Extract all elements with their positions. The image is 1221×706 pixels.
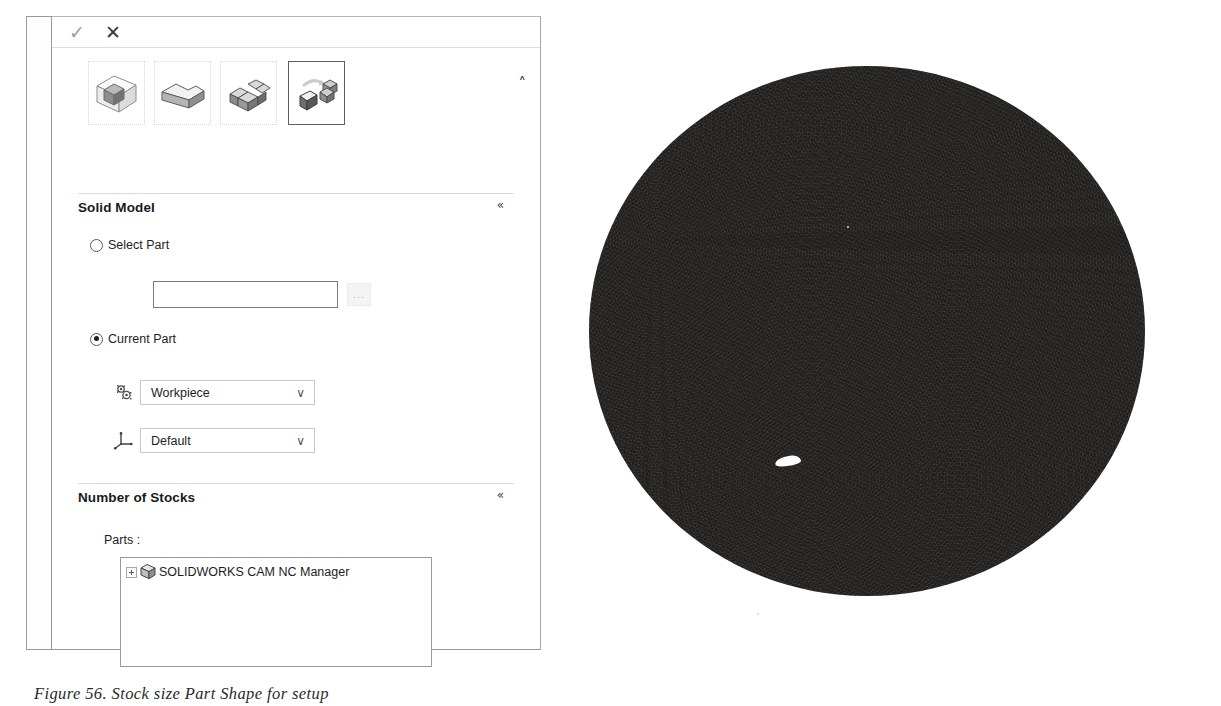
number-of-stocks-title: Number of Stocks [78,490,195,505]
property-manager-panel: ✓ ✕ [52,16,540,650]
current-part-radio[interactable] [90,333,103,346]
solid-model-collapse-icon[interactable]: « [497,198,504,212]
parts-label: Parts : [104,533,140,547]
solid-model-group: Solid Model « [78,193,514,219]
scan-speck [847,226,849,228]
panel-collapse-chevron-icon[interactable]: ˄ [519,77,527,92]
expand-plus-icon[interactable] [126,567,137,578]
cube-icon [139,563,159,581]
coordinate-system-value: Default [141,434,191,448]
current-part-label: Current Part [108,332,176,346]
stl-mesh-stock-button[interactable] [220,61,277,125]
part-file-stock-icon [290,64,343,124]
command-manager-gutter[interactable] [26,16,52,650]
accept-check-icon[interactable]: ✓ [65,21,89,43]
stock-model-render[interactable] [589,66,1145,596]
number-of-stocks-group: Number of Stocks « [78,483,514,509]
chevron-down-icon[interactable]: ∨ [296,434,305,448]
graphics-area[interactable] [541,16,1214,650]
solidworks-cam-screenshot: ✓ ✕ [26,16,1214,650]
scan-speck [757,613,759,615]
configuration-value: Workpiece [141,386,210,400]
tree-item-label: SOLIDWORKS CAM NC Manager [159,565,349,579]
stock-type-button-row [52,49,540,139]
configuration-row: Workpiece ∨ [112,380,315,405]
chevron-down-icon[interactable]: ∨ [296,386,305,400]
select-part-label: Select Part [108,238,169,252]
parts-tree[interactable]: SOLIDWORKS CAM NC Manager [120,557,432,667]
solid-model-title: Solid Model [78,200,155,215]
configuration-icon [112,381,140,405]
select-part-radio[interactable] [90,239,103,252]
property-manager-header: ✓ ✕ [52,17,540,48]
tree-row[interactable]: SOLIDWORKS CAM NC Manager [121,558,431,583]
part-selection-field[interactable] [153,281,338,308]
stl-mesh-stock-icon [222,64,275,124]
figure-caption: Figure 56. Stock size Part Shape for set… [34,684,329,704]
configuration-combo[interactable]: Workpiece ∨ [140,380,315,405]
bounding-box-stock-icon [90,64,143,124]
bounding-box-stock-button[interactable] [88,61,145,125]
number-of-stocks-header[interactable]: Number of Stocks « [78,483,514,509]
part-file-stock-button[interactable] [288,61,345,125]
model-highlight-facet [774,454,801,467]
coordinate-system-combo[interactable]: Default ∨ [140,428,315,453]
page-root: ✓ ✕ [0,0,1221,706]
coordinate-system-icon [112,429,140,453]
select-part-radio-row[interactable]: Select Part [90,238,169,252]
extruded-sketch-stock-icon [156,64,209,124]
cancel-close-icon[interactable]: ✕ [101,21,125,43]
browse-button[interactable]: ... [347,283,371,306]
coordinate-system-row: Default ∨ [112,428,315,453]
extruded-sketch-stock-button[interactable] [154,61,211,125]
current-part-radio-row[interactable]: Current Part [90,332,176,346]
number-of-stocks-collapse-icon[interactable]: « [497,488,504,502]
solid-model-header[interactable]: Solid Model « [78,193,514,219]
